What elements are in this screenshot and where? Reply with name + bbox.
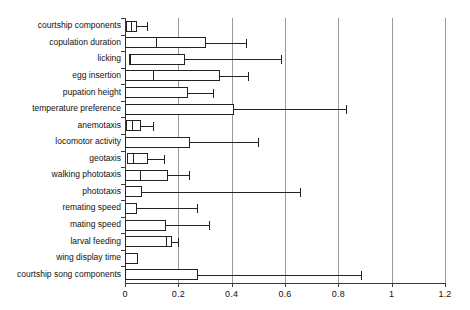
y-tick-mark [121,51,125,52]
category-label: walking phototaxis [0,170,121,179]
x-tick-label: 1.2 [425,289,465,299]
y-tick-mark [121,18,125,19]
y-tick-mark [121,151,125,152]
y-tick-mark [121,117,125,118]
box-plot-box [125,137,190,148]
box-plot-median [133,153,134,164]
box-plot-box [125,236,172,247]
box-plot-box [129,54,185,65]
category-label: remating speed [0,203,121,212]
x-tick-mark [445,283,446,287]
x-tick-mark [338,283,339,287]
y-tick-mark [121,233,125,234]
x-tick-label: 0.2 [158,289,198,299]
whisker-line [142,192,299,193]
whisker-cap [178,238,179,247]
y-tick-mark [121,84,125,85]
whisker-cap [189,171,190,180]
y-tick-mark [121,167,125,168]
whisker-cap [300,188,301,197]
category-label: egg insertion [0,71,121,80]
box-plot-median [140,170,141,181]
category-label: copulation duration [0,38,121,47]
whisker-cap [248,72,249,81]
whisker-cap [281,55,282,64]
whisker-cap [213,89,214,98]
whisker-cap [147,22,148,31]
category-label: courtship components [0,21,121,30]
box-plot-box [126,120,141,131]
whisker-cap [246,39,247,48]
box-plot-box [125,70,220,81]
x-tick-mark [232,283,233,287]
x-tick-mark [392,283,393,287]
x-tick-mark [285,283,286,287]
whisker-cap [197,204,198,213]
box-plot-median [130,54,131,65]
whisker-line [148,159,164,160]
category-label: courtship song components [0,270,121,279]
whisker-line [168,175,189,176]
whisker-line [141,126,153,127]
gridline [232,18,233,283]
x-tick-label: 0 [105,289,145,299]
whisker-line [206,43,246,44]
category-label: geotaxis [0,154,121,163]
y-tick-mark [121,68,125,69]
box-plot-box [125,186,142,197]
chart-container: 00.20.40.60.811.2 courtship componentsco… [0,0,470,310]
box-plot-median [131,21,132,32]
x-tick-label: 0.8 [318,289,358,299]
whisker-line [190,142,258,143]
box-plot-box [125,87,188,98]
y-tick-mark [121,134,125,135]
whisker-cap [209,221,210,230]
x-tick-mark [178,283,179,287]
box-plot-median [132,120,133,131]
y-tick-mark [121,184,125,185]
category-label: wing display time [0,253,121,262]
x-tick-label: 1 [372,289,412,299]
category-label: licking [0,54,121,63]
whisker-line [172,242,179,243]
gridline [285,18,286,283]
y-tick-mark [121,101,125,102]
category-label: locomotor activity [0,137,121,146]
whisker-line [185,59,281,60]
gridline [338,18,339,283]
box-plot-box [127,153,148,164]
box-plot-box [125,37,206,48]
box-plot-box [125,253,138,264]
box-plot-box [125,104,234,115]
x-tick-label: 0.4 [212,289,252,299]
category-label: temperature preference [0,104,121,113]
whisker-line [188,93,213,94]
whisker-line [137,208,197,209]
gridline [392,18,393,283]
x-tick-mark [125,283,126,287]
box-plot-median [156,37,157,48]
y-tick-mark [121,35,125,36]
whisker-cap [346,105,347,114]
whisker-line [137,26,147,27]
gridline [445,18,446,283]
box-plot-median [153,70,154,81]
category-label: phototaxis [0,187,121,196]
whisker-cap [258,138,259,147]
box-plot-box [125,203,137,214]
box-plot-box [125,269,198,280]
y-tick-mark [121,200,125,201]
box-plot-box [125,220,166,231]
whisker-line [198,275,361,276]
category-label: anemotaxis [0,121,121,130]
box-plot-box [125,170,168,181]
category-label: pupation height [0,88,121,97]
whisker-cap [153,122,154,131]
x-tick-label: 0.6 [265,289,305,299]
y-tick-mark [121,266,125,267]
y-tick-mark [121,217,125,218]
whisker-line [220,76,248,77]
box-plot-median [166,236,167,247]
whisker-line [234,109,346,110]
whisker-cap [164,155,165,164]
